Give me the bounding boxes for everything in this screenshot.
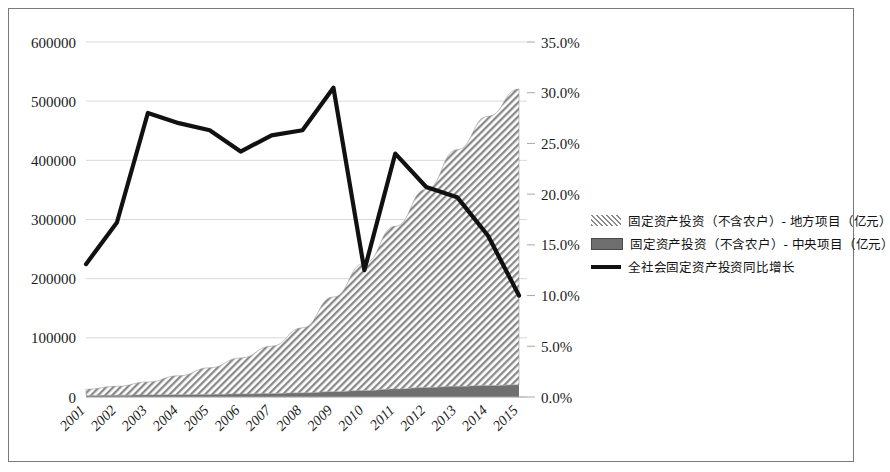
x-tick-label: 2002 [87, 402, 119, 434]
right-tick-label: 10.0% [541, 288, 580, 304]
legend-item-central-projects: 固定资产投资（不含农户）- 中央项目（亿元） [591, 232, 863, 255]
x-tick-label: 2015 [489, 402, 521, 434]
legend-label-growth-rate: 全社会固定资产投资同比增长 [628, 257, 794, 276]
right-axis-tick-labels: 0.0%5.0%10.0%15.0%20.0%25.0%30.0%35.0% [541, 35, 580, 406]
right-tick-label: 35.0% [541, 35, 580, 51]
x-tick-label: 2001 [56, 402, 88, 434]
x-axis-tick-labels: 2001200220032004200520062007200820092010… [56, 401, 521, 433]
left-tick-label: 400000 [31, 153, 76, 169]
x-tick-label: 2009 [304, 401, 336, 433]
x-tick-label: 2008 [273, 401, 305, 433]
legend-item-growth-rate: 全社会固定资产投资同比增长 [591, 255, 863, 278]
x-tick-label: 2004 [149, 402, 181, 434]
right-tick-label: 20.0% [541, 187, 580, 203]
left-tick-label: 600000 [31, 35, 76, 51]
left-tick-label: 200000 [31, 271, 76, 287]
right-tick-label: 30.0% [541, 85, 580, 101]
right-tick-label: 25.0% [541, 136, 580, 152]
area-local-projects [86, 89, 519, 395]
right-tick-label: 5.0% [541, 339, 572, 355]
x-tick-label: 2014 [458, 402, 490, 434]
x-tick-label: 2006 [211, 401, 243, 433]
hatch-swatch-icon [591, 215, 621, 226]
left-tick-label: 500000 [31, 94, 76, 110]
legend-label-local-projects: 固定资产投资（不含农户）- 地方项目（亿元） [628, 211, 890, 230]
chart-frame: 0100000200000300000400000500000600000 0.… [8, 8, 854, 462]
stacked-area-series [86, 89, 519, 397]
x-tick-label: 2012 [397, 402, 429, 434]
chart-legend: 固定资产投资（不含农户）- 地方项目（亿元） 固定资产投资（不含农户）- 中央项… [591, 209, 863, 278]
left-axis-tick-labels: 0100000200000300000400000500000600000 [31, 35, 76, 406]
left-tick-label: 100000 [31, 330, 76, 346]
x-tick-label: 2007 [242, 401, 274, 433]
x-tick-label: 2003 [118, 402, 150, 434]
left-tick-label: 300000 [31, 212, 76, 228]
x-tick-label: 2005 [180, 402, 212, 434]
x-tick-label: 2013 [427, 402, 459, 434]
line-swatch-icon [591, 265, 621, 269]
legend-item-local-projects: 固定资产投资（不含农户）- 地方项目（亿元） [591, 209, 863, 232]
right-tick-label: 0.0% [541, 390, 572, 406]
x-tick-label: 2011 [366, 402, 397, 433]
legend-label-central-projects: 固定资产投资（不含农户）- 中央项目（亿元） [630, 234, 890, 253]
solid-swatch-icon [591, 238, 623, 250]
x-tick-label: 2010 [335, 401, 367, 433]
right-tick-label: 15.0% [541, 237, 580, 253]
